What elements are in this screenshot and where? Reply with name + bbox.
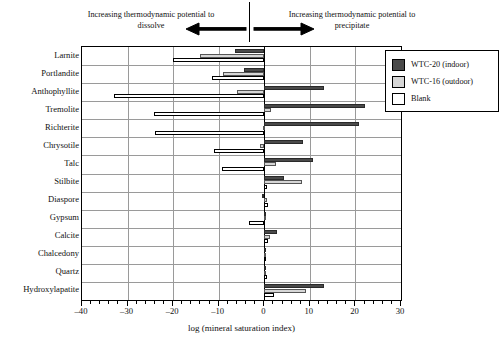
bar	[264, 248, 266, 252]
bar	[264, 176, 284, 180]
chart-canvas: Increasing thermodynamic potential to di…	[0, 0, 503, 344]
gridline-horizontal	[82, 137, 401, 138]
legend-label: WTC-20 (indoor)	[411, 60, 469, 69]
x-tick-minor	[117, 301, 118, 304]
gridline-horizontal	[82, 210, 401, 211]
bar	[200, 54, 264, 58]
y-axis-label-hydroxylapatite: Hydroxylapatite	[1, 284, 79, 294]
x-tick-minor	[190, 301, 191, 304]
x-axis-tick-label: –20	[157, 306, 187, 316]
bar	[264, 140, 303, 144]
y-axis-label-portlandite: Portlandite	[1, 68, 79, 78]
x-tick-minor	[199, 301, 200, 304]
x-axis-tick-label: 30	[385, 306, 415, 316]
x-tick-minor	[254, 301, 255, 304]
x-axis-tick-label: –10	[203, 306, 233, 316]
x-tick-minor	[227, 301, 228, 304]
y-axis-label-quartz: Quartz	[1, 266, 79, 276]
y-axis-label-diaspore: Diaspore	[1, 194, 79, 204]
bar	[244, 68, 265, 72]
legend-label: Blank	[411, 94, 431, 103]
bar	[155, 131, 264, 135]
bar	[264, 162, 276, 166]
bar	[264, 108, 270, 112]
white-swatch	[392, 93, 405, 105]
plot-area	[81, 46, 402, 301]
x-tick-minor	[382, 301, 383, 304]
x-tick-minor	[318, 301, 319, 304]
bar	[235, 49, 265, 53]
bar	[222, 167, 264, 171]
gridline-vertical	[173, 47, 174, 300]
bar	[173, 58, 264, 62]
gridline-vertical	[219, 47, 220, 300]
bar	[264, 253, 266, 257]
y-axis-labels: LarnitePortlanditeAnthophylliteTremolite…	[0, 46, 79, 301]
legend-label: WTC-16 (outdoor)	[411, 77, 473, 86]
x-tick-minor	[145, 301, 146, 304]
x-axis-tick-label: 10	[294, 306, 324, 316]
y-axis-label-calcite: Calcite	[1, 230, 79, 240]
bar	[263, 126, 265, 130]
x-tick-minor	[108, 301, 109, 304]
gridline-horizontal	[82, 174, 401, 175]
bar	[264, 86, 323, 90]
x-axis-tick-label: 0	[248, 306, 278, 316]
gridline-horizontal	[82, 264, 401, 265]
bar	[154, 112, 265, 116]
legend-item[interactable]: Blank	[392, 90, 494, 107]
y-axis-label-larnite: Larnite	[1, 50, 79, 60]
legend-item[interactable]: WTC-20 (indoor)	[392, 56, 494, 73]
bar	[264, 235, 270, 239]
bar	[264, 185, 267, 189]
y-axis-label-gypsum: Gypsum	[1, 212, 79, 222]
x-tick-minor	[364, 301, 365, 304]
bar	[264, 104, 364, 108]
bar	[264, 203, 268, 207]
x-tick-minor	[90, 301, 91, 304]
x-axis-title: log (mineral saturation index)	[81, 323, 402, 333]
bar	[264, 212, 266, 216]
x-axis-tick-labels: –40–30–20–100102030	[0, 306, 503, 318]
x-tick-minor	[282, 301, 283, 304]
bar	[264, 230, 277, 234]
bar	[262, 194, 265, 198]
gridline-horizontal	[82, 282, 401, 283]
bar	[260, 144, 264, 148]
bar	[212, 76, 264, 80]
x-tick-minor	[245, 301, 246, 304]
x-tick-minor	[300, 301, 301, 304]
gridline-vertical	[355, 47, 356, 300]
direction-arrows	[186, 22, 314, 36]
right-arrow-icon	[301, 23, 314, 35]
y-axis-label-tremolite: Tremolite	[1, 104, 79, 114]
y-axis-label-chrysotile: Chrysotile	[1, 140, 79, 150]
gridline-horizontal	[82, 119, 401, 120]
bar	[264, 271, 266, 275]
x-axis-tick-label: –30	[112, 306, 142, 316]
x-tick-minor	[209, 301, 210, 304]
x-axis-tick-label: –40	[66, 306, 96, 316]
x-tick-minor	[327, 301, 328, 304]
x-tick-minor	[345, 301, 346, 304]
bar	[223, 72, 264, 76]
x-tick-minor	[136, 301, 137, 304]
bar	[264, 239, 268, 243]
x-tick-minor	[291, 301, 292, 304]
x-tick-minor	[154, 301, 155, 304]
x-axis-tick-label: 20	[339, 306, 369, 316]
bar	[264, 122, 359, 126]
x-tick-minor	[181, 301, 182, 304]
bar	[237, 90, 264, 94]
gridline-horizontal	[82, 155, 401, 156]
y-axis-label-stilbite: Stilbite	[1, 176, 79, 186]
bar	[264, 198, 267, 202]
y-axis-label-anthophyllite: Anthophyllite	[1, 86, 79, 96]
gridline-horizontal	[82, 246, 401, 247]
bar	[214, 149, 264, 153]
x-tick-minor	[163, 301, 164, 304]
legend-item[interactable]: WTC-16 (outdoor)	[392, 73, 494, 90]
x-tick-minor	[373, 301, 374, 304]
x-tick-minor	[272, 301, 273, 304]
dark-gray-swatch	[392, 59, 405, 71]
